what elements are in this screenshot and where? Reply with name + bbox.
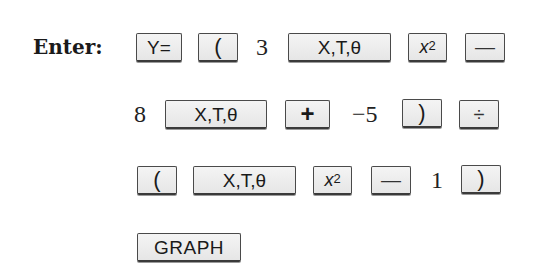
key-plus[interactable]: + — [285, 100, 330, 129]
x-squared-exponent: 2 — [428, 39, 435, 52]
key-close-paren[interactable]: ) — [402, 99, 442, 128]
key-subtract[interactable]: — — [465, 33, 505, 62]
key-open-paren[interactable]: ( — [137, 166, 177, 195]
key-divide[interactable]: ÷ — [459, 100, 499, 129]
x-squared-base: x — [324, 171, 333, 189]
key-xttheta[interactable]: X,T,θ — [165, 100, 267, 129]
key-xttheta[interactable]: X,T,θ — [193, 166, 296, 195]
key-x-squared[interactable]: x2 — [313, 166, 352, 195]
key-open-paren[interactable]: ( — [198, 33, 238, 62]
value-3: 3 — [256, 35, 268, 59]
x-squared-exponent: 2 — [333, 172, 340, 185]
value-negative-5: −5 — [352, 102, 378, 126]
key-close-paren[interactable]: ) — [461, 165, 501, 194]
key-xttheta[interactable]: X,T,θ — [288, 33, 391, 62]
key-x-squared[interactable]: x2 — [408, 33, 447, 62]
x-squared-base: x — [419, 38, 428, 56]
enter-label: Enter: — [33, 37, 103, 57]
value-8: 8 — [134, 102, 146, 126]
key-subtract[interactable]: — — [371, 166, 411, 195]
value-1: 1 — [431, 168, 443, 192]
key-graph[interactable]: GRAPH — [137, 233, 241, 262]
key-y-equals[interactable]: Y= — [136, 33, 182, 62]
